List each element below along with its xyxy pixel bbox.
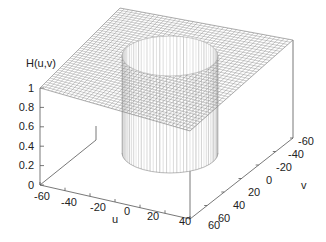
v-tick-labels: -60 -40 -20 0 20 40 60 [218,135,314,224]
z-ticks [40,88,44,185]
z-tick-label: 1 [28,82,34,94]
u-tick-labels: -60 -40 -20 0 20 40 60 [34,190,220,231]
u-tick-label: -60 [34,190,50,202]
v-tick-label: 60 [218,212,230,224]
z-tick-label: 0.2 [19,159,34,171]
v-tick-label: 40 [233,199,245,211]
u-tick-label: 20 [147,210,159,222]
u-axis-label: u [112,213,118,225]
floor-back-edge [40,140,96,185]
v-axis-label: v [301,179,307,191]
z-tick-label: 0.6 [19,120,34,132]
u-tick-label: 0 [124,205,130,217]
surface-plot: 1 0.8 0.6 0.4 0.2 0 H(u,v) -60 -40 -20 0… [0,0,326,242]
v-tick-label: 20 [248,186,260,198]
v-tick-label: -20 [276,161,292,173]
u-tick-label: 40 [179,215,191,227]
u-tick-label: -20 [90,201,106,213]
z-tick-label: 0.4 [19,140,34,152]
u-tick-label: -40 [61,196,77,208]
v-tick-label: -40 [288,148,304,160]
z-tick-labels: 1 0.8 0.6 0.4 0.2 0 [19,82,34,191]
v-tick-label: -60 [298,135,314,147]
z-axis-label: H(u,v) [26,57,56,69]
v-tick-label: 0 [266,174,272,186]
z-tick-label: 0.8 [19,101,34,113]
